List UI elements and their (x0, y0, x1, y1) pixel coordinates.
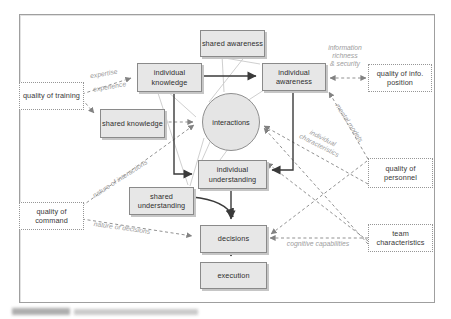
node-shared-knowledge: shared knowledge (100, 109, 165, 138)
node-individual-understanding: individual understanding (198, 160, 267, 189)
node-shared-understanding: shared understanding (129, 187, 194, 215)
label-information: information (322, 44, 368, 52)
figure-canvas: shared awareness individual knowledge in… (0, 0, 451, 319)
redacted-caption-lead (12, 308, 70, 315)
factor-team-characteristics: team characteristics (368, 224, 433, 252)
arrow-awareness-understanding (272, 89, 293, 170)
node-interactions-circle: interactions (202, 93, 260, 151)
redacted-caption (12, 308, 198, 316)
factor-quality-of-personnel: quality of personnel (368, 158, 433, 188)
label-richness: richness (322, 52, 368, 60)
node-individual-knowledge: individual knowledge (137, 63, 202, 92)
label-cognitive-capabilities: cognitive capabilities (280, 240, 356, 248)
label-information-richness-security: information richness & security (322, 44, 368, 67)
arrow-sharedunderstanding-decisions (192, 197, 233, 217)
factor-quality-of-training: quality of training (19, 82, 84, 110)
factor-quality-of-info-position: quality of info. position (368, 64, 432, 92)
edge-teamchar-understanding (267, 163, 368, 241)
label-and-security: & security (322, 60, 368, 68)
node-execution: execution (200, 262, 267, 289)
arrow-knowledge-understanding (174, 90, 192, 174)
edge-personnel-decisions (271, 161, 367, 234)
node-individual-awareness: individual awareness (262, 63, 326, 91)
node-shared-awareness: shared awareness (200, 30, 265, 57)
node-decisions: decisions (200, 225, 267, 253)
factor-quality-of-command: quality of command (19, 202, 84, 230)
redacted-caption-body (74, 309, 198, 315)
